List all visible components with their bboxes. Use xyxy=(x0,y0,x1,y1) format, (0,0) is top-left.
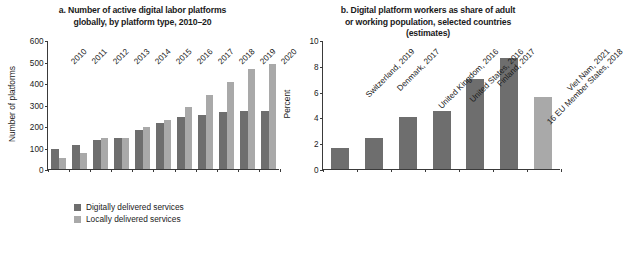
bar-digital xyxy=(177,117,184,169)
legend-item-digital: Digitally delivered services xyxy=(74,203,184,212)
chart-b-title: b. Digital platform workers as share of … xyxy=(285,5,571,40)
bar-group xyxy=(48,41,69,169)
x-tick-mark xyxy=(527,169,528,172)
x-tick-mark xyxy=(69,169,70,172)
bar-digital xyxy=(114,138,121,169)
bar-country xyxy=(365,138,383,169)
x-tick-mark xyxy=(323,169,324,172)
chart-b-plot-area: Percent 0246810 Switzerland, 2019Denmark… xyxy=(322,41,560,170)
bar-group xyxy=(526,41,560,169)
legend-swatch-local-icon xyxy=(74,216,81,223)
bar-local xyxy=(101,138,108,169)
x-tick-mark xyxy=(357,169,358,172)
x-tick-mark xyxy=(90,169,91,172)
legend-swatch-digital-icon xyxy=(74,204,81,211)
bar-local xyxy=(248,69,255,169)
bar-local xyxy=(227,82,234,169)
bar-digital xyxy=(156,123,163,169)
chart-a-legend: Digitally delivered services Locally del… xyxy=(74,203,184,227)
x-tick-mark xyxy=(238,169,239,172)
x-tick-mark xyxy=(459,169,460,172)
x-tick-mark xyxy=(153,169,154,172)
bar-digital xyxy=(72,145,79,169)
bar-digital xyxy=(219,112,226,169)
chart-b-title-line-3: (estimates) xyxy=(299,28,557,40)
x-tick-mark xyxy=(493,169,494,172)
chart-a-y-axis-label: Number of platforms xyxy=(7,58,17,150)
x-tick-mark xyxy=(48,169,49,172)
x-tick-mark xyxy=(425,169,426,172)
x-tick-mark xyxy=(175,169,176,172)
bar-local xyxy=(164,120,171,169)
bar-country xyxy=(534,97,552,169)
x-tick-mark xyxy=(132,169,133,172)
chart-b-y-axis-label: Percent xyxy=(282,58,292,150)
bar-country xyxy=(399,117,417,169)
bar-local xyxy=(59,158,66,169)
legend-label-local: Locally delivered services xyxy=(86,215,181,224)
bar-digital xyxy=(261,111,268,169)
bar-country xyxy=(331,148,349,169)
legend-item-local: Locally delivered services xyxy=(74,215,184,224)
x-tick-mark xyxy=(196,169,197,172)
x-tick-mark xyxy=(111,169,112,172)
chart-b-title-line-1: b. Digital platform workers as share of … xyxy=(299,5,557,17)
x-tick-mark xyxy=(391,169,392,172)
x-tick-mark xyxy=(259,169,260,172)
chart-b-title-line-2: or working population, selected countrie… xyxy=(299,17,557,29)
x-tick-mark xyxy=(217,169,218,172)
x-tick-mark xyxy=(280,169,281,172)
legend-label-digital: Digitally delivered services xyxy=(86,203,184,212)
bar-digital xyxy=(198,115,205,169)
bar-country xyxy=(433,111,451,169)
bar-local xyxy=(206,95,213,169)
chart-a-title-line-1: a. Number of active digital labor platfo… xyxy=(14,5,271,17)
x-tick-mark xyxy=(561,169,562,172)
bar-digital xyxy=(135,130,142,169)
bar-local xyxy=(185,107,192,169)
bar-digital xyxy=(93,140,100,169)
bar-digital xyxy=(240,111,247,169)
bar-group xyxy=(323,41,357,169)
bar-group xyxy=(357,41,391,169)
bar-digital xyxy=(51,149,58,169)
bar-local xyxy=(269,64,276,169)
chart-panel-a: a. Number of active digital labor platfo… xyxy=(0,0,285,264)
bar-local xyxy=(80,153,87,169)
chart-a-title: a. Number of active digital labor platfo… xyxy=(0,5,285,28)
chart-a-title-line-2: globally, by platform type, 2010–20 xyxy=(14,17,271,29)
chart-a-plot-area: Number of platforms 0100200300400500600 … xyxy=(47,41,279,170)
bar-local xyxy=(122,138,129,169)
bar-local xyxy=(143,127,150,169)
